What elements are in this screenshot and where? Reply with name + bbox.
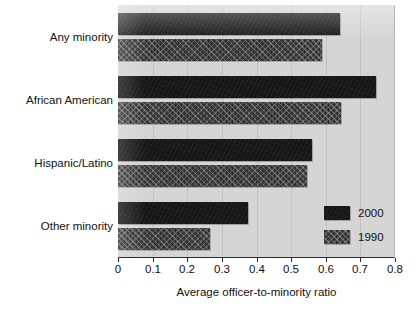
x-tick-label: 0.2: [179, 263, 195, 275]
x-tick-label: 0.7: [352, 263, 368, 275]
y-axis-label: African American: [0, 94, 113, 106]
y-axis-label: Hispanic/Latino: [0, 157, 113, 169]
legend-swatch-2000: [324, 206, 350, 220]
x-tick-mark: [360, 258, 361, 262]
x-tick-mark: [153, 258, 154, 262]
bar-2000-other-minority: [118, 202, 248, 224]
legend-swatch-1990: [324, 230, 350, 244]
x-tick-mark: [187, 258, 188, 262]
x-tick-mark: [222, 258, 223, 262]
x-tick-mark: [257, 258, 258, 262]
y-axis-label: Other minority: [0, 220, 113, 232]
x-tick-label: 0.1: [145, 263, 161, 275]
legend-item-2000: 2000: [324, 201, 390, 225]
x-tick-mark: [326, 258, 327, 262]
bar-2000-any-minority: [118, 13, 340, 35]
bar-1990-any-minority: [118, 39, 322, 61]
y-axis-label: Any minority: [0, 31, 113, 43]
plot-area: 20001990: [118, 5, 395, 258]
chart-legend: 20001990: [324, 201, 390, 249]
y-axis-labels: Any minorityAfrican AmericanHispanic/Lat…: [0, 0, 113, 310]
bar-chart-figure: Any minorityAfrican AmericanHispanic/Lat…: [0, 0, 416, 310]
bar-1990-hispanic-latino: [118, 165, 307, 187]
x-axis-title: Average officer-to-minority ratio: [118, 286, 395, 298]
bar-1990-african-american: [118, 102, 341, 124]
x-tick-mark: [118, 258, 119, 262]
x-axis-ticks: 00.10.20.30.40.50.60.70.8: [118, 258, 395, 276]
bar-2000-african-american: [118, 76, 376, 98]
x-tick-label: 0.6: [318, 263, 334, 275]
legend-label: 1990: [358, 231, 384, 243]
x-tick-mark: [291, 258, 292, 262]
legend-item-1990: 1990: [324, 225, 390, 249]
x-tick-label: 0.8: [387, 263, 403, 275]
bar-1990-other-minority: [118, 228, 210, 250]
x-tick-mark: [395, 258, 396, 262]
legend-label: 2000: [358, 207, 384, 219]
bar-2000-hispanic-latino: [118, 139, 312, 161]
x-tick-label: 0.4: [249, 263, 265, 275]
x-tick-label: 0.3: [214, 263, 230, 275]
x-tick-label: 0: [115, 263, 121, 275]
x-tick-label: 0.5: [283, 263, 299, 275]
